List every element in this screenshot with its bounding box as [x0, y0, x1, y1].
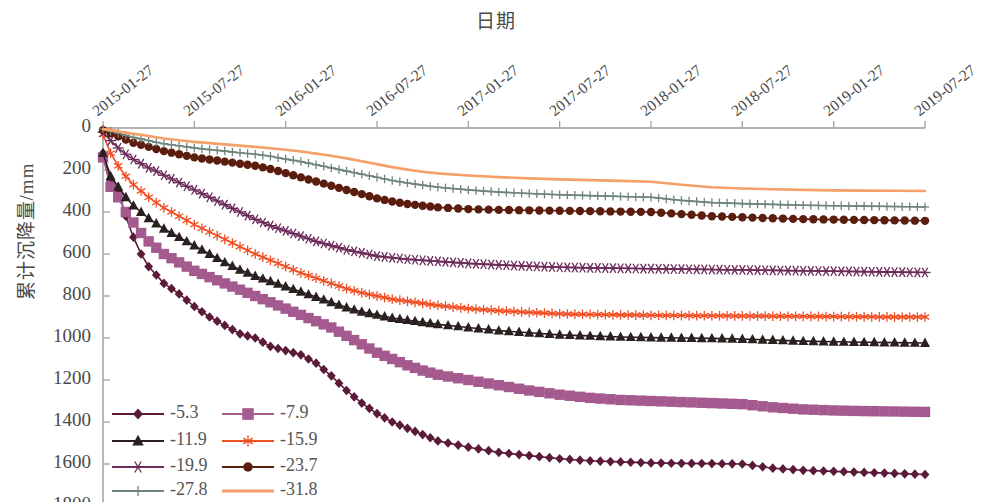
data-marker: [426, 433, 435, 443]
data-marker: [789, 215, 797, 223]
data-marker: [251, 333, 260, 343]
legend-marker: [132, 435, 143, 446]
data-marker: [281, 262, 289, 272]
legend-marker: [242, 408, 254, 420]
data-marker: [723, 199, 732, 208]
data-marker: [544, 388, 554, 398]
data-marker: [371, 251, 382, 261]
data-marker: [563, 191, 572, 200]
data-marker: [266, 255, 274, 265]
legend-entry[interactable]: [112, 486, 164, 496]
data-marker: [464, 186, 473, 195]
data-marker: [502, 188, 511, 197]
legend-entry[interactable]: [112, 408, 164, 419]
data-marker: [456, 185, 465, 194]
data-marker: [586, 207, 594, 215]
data-marker: [636, 458, 645, 468]
data-marker: [220, 321, 229, 331]
data-marker: [167, 207, 175, 217]
data-marker: [304, 271, 312, 281]
data-marker: [515, 206, 523, 214]
data-marker: [312, 273, 320, 283]
data-marker: [365, 172, 374, 181]
data-marker: [444, 204, 452, 212]
data-marker: [616, 207, 624, 215]
data-marker: [515, 450, 524, 460]
data-marker: [738, 213, 746, 221]
data-marker: [474, 444, 483, 454]
legend-entry[interactable]: [112, 435, 164, 446]
data-marker: [738, 459, 747, 469]
data-marker: [828, 405, 838, 415]
data-marker: [274, 344, 283, 354]
data-marker: [434, 203, 442, 211]
legend-label[interactable]: -23.7: [280, 455, 318, 476]
data-marker: [453, 373, 463, 383]
data-marker: [259, 252, 267, 262]
legend-entry[interactable]: [222, 462, 274, 472]
data-marker: [601, 192, 610, 201]
data-marker: [418, 181, 427, 190]
data-marker: [697, 398, 707, 408]
legend-label[interactable]: -5.3: [170, 402, 199, 423]
plot-area: [0, 0, 992, 502]
data-marker: [228, 158, 236, 166]
data-marker: [463, 375, 473, 385]
data-marker: [175, 142, 184, 151]
data-marker: [728, 459, 737, 469]
data-marker: [281, 346, 290, 356]
data-marker: [243, 161, 251, 169]
data-marker: [738, 199, 747, 208]
data-marker: [829, 201, 838, 210]
data-marker: [656, 396, 666, 406]
data-marker: [859, 406, 869, 416]
data-marker: [205, 145, 214, 154]
data-marker: [788, 404, 798, 414]
data-marker: [160, 147, 168, 155]
data-marker: [128, 217, 138, 227]
legend-label[interactable]: -7.9: [280, 402, 309, 423]
data-marker: [373, 194, 381, 202]
data-marker: [454, 204, 462, 212]
data-marker: [799, 215, 807, 223]
data-marker: [921, 203, 930, 212]
legend-entry[interactable]: [222, 408, 274, 420]
data-marker: [266, 165, 274, 173]
data-marker: [808, 405, 818, 415]
legend-entry[interactable]: [112, 461, 164, 472]
data-marker: [636, 395, 646, 405]
data-marker: [289, 265, 297, 275]
data-marker: [692, 197, 701, 206]
data-marker: [167, 148, 175, 156]
legend-label[interactable]: -11.9: [170, 429, 207, 450]
data-marker: [396, 199, 404, 207]
data-marker: [484, 446, 493, 456]
settlement-chart-figure: 日期 累计沉降量/mm 0200400600800100012001400160…: [0, 0, 992, 502]
legend-label[interactable]: -19.9: [170, 455, 208, 476]
data-marker: [274, 167, 282, 175]
data-marker: [748, 213, 756, 221]
data-marker: [213, 316, 222, 326]
legend-label[interactable]: -15.9: [280, 429, 318, 450]
data-marker: [860, 216, 868, 224]
data-marker: [251, 249, 259, 259]
legend-label[interactable]: -27.8: [170, 479, 208, 500]
legend-entry[interactable]: [222, 435, 274, 446]
data-marker: [913, 203, 922, 212]
data-marker: [595, 393, 605, 403]
data-marker: [761, 200, 770, 209]
data-marker: [545, 453, 554, 463]
data-marker: [829, 215, 837, 223]
data-marker: [791, 201, 800, 210]
legend-label[interactable]: -31.8: [280, 479, 318, 500]
data-marker: [566, 207, 574, 215]
data-marker: [289, 156, 298, 165]
data-marker: [433, 370, 443, 380]
data-marker: [464, 205, 472, 213]
data-marker: [198, 223, 206, 233]
data-marker: [358, 170, 367, 179]
data-marker: [609, 192, 618, 201]
data-marker: [819, 215, 827, 223]
data-marker: [901, 216, 909, 224]
data-marker: [666, 397, 676, 407]
